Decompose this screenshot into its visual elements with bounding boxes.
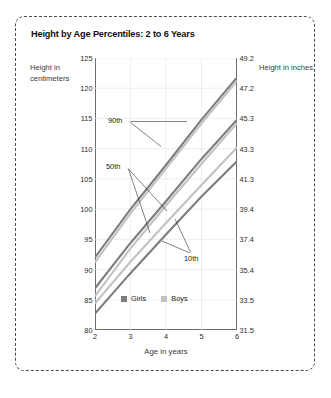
- x-tick: 2: [93, 332, 97, 341]
- leader-10th-b: [162, 241, 190, 253]
- legend-label-girls: Girls: [131, 294, 146, 303]
- y-tick-left: 110: [81, 144, 93, 153]
- y-axis-label-right: Height in inches: [259, 63, 315, 74]
- leader-50th-a: [128, 169, 167, 212]
- legend-swatch-boys: [161, 296, 167, 302]
- chart-legend: Girls Boys: [121, 294, 188, 303]
- y-tick-right: 35.4: [240, 265, 254, 274]
- y-tick-right: 43.3: [240, 144, 254, 153]
- legend-item-girls: Girls: [121, 294, 146, 303]
- x-tick: 4: [164, 332, 168, 341]
- x-tick: 6: [235, 332, 239, 341]
- x-axis-label: Age in years: [16, 347, 316, 356]
- y-tick-right: 31.5: [240, 326, 254, 335]
- y-tick-right: 33.5: [240, 295, 254, 304]
- chart-title: Height by Age Percentiles: 2 to 6 Years: [31, 29, 195, 39]
- x-tick: 5: [199, 332, 203, 341]
- y-tick-left: 85: [84, 295, 92, 304]
- x-tick: 3: [128, 332, 132, 341]
- legend-label-boys: Boys: [171, 294, 187, 303]
- leader-90th-b: [131, 123, 162, 147]
- leader-10th-a: [175, 219, 191, 252]
- annotation-10th: 10th: [184, 254, 198, 263]
- y-tick-right: 49.2: [240, 54, 254, 63]
- y-tick-left: 80: [84, 326, 92, 335]
- plot-wrapper: 90th 50th 10th Girls Boys 80859095100105…: [95, 58, 237, 330]
- y-tick-left: 95: [84, 235, 92, 244]
- annotation-leaders-svg: [95, 58, 237, 330]
- y-tick-left: 105: [80, 174, 92, 183]
- y-tick-left: 115: [81, 114, 93, 123]
- chart-figure-frame: Height by Age Percentiles: 2 to 6 Years …: [15, 16, 315, 371]
- y-axis-label-left: Height in centimeters: [30, 63, 92, 84]
- leader-50th-b: [129, 169, 151, 233]
- legend-item-boys: Boys: [161, 294, 187, 303]
- annotation-90th: 90th: [108, 116, 122, 125]
- y-tick-left: 100: [80, 205, 92, 214]
- y-tick-right: 41.3: [240, 174, 254, 183]
- y-tick-right: 37.4: [240, 235, 254, 244]
- legend-swatch-girls: [121, 296, 127, 302]
- y-tick-left: 120: [80, 84, 92, 93]
- y-tick-left: 90: [84, 265, 92, 274]
- y-tick-left: 125: [80, 54, 92, 63]
- y-tick-right: 45.3: [240, 114, 254, 123]
- y-tick-right: 39.4: [240, 205, 254, 214]
- annotation-50th: 50th: [106, 162, 120, 171]
- y-tick-right: 47.2: [240, 84, 254, 93]
